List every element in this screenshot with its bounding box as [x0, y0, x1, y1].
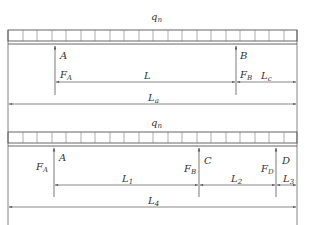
dimension-label-l3: L3	[282, 173, 295, 186]
dimension-label-l4: L4	[147, 195, 159, 208]
support-label-a: A	[59, 50, 67, 61]
dimension-label-l1: L1	[121, 173, 133, 186]
support-label-c: C	[204, 155, 212, 166]
beam-diagram: qn A FA B FB L Lc	[0, 0, 309, 225]
force-label-fb2: FB	[183, 163, 196, 176]
force-label-fd: FD	[260, 163, 274, 176]
dimension-label-l2: L2	[230, 173, 243, 186]
load-label-qn-2: qn	[151, 117, 162, 130]
load-label-qn-1: qn	[151, 11, 162, 24]
support-label-b: B	[239, 50, 247, 61]
force-label-fb: FB	[239, 69, 252, 82]
beam-2: qn A FA C FB D FD L1	[8, 117, 297, 208]
dimension-label-la: La	[147, 92, 159, 105]
dimension-label-lc: Lc	[260, 70, 272, 83]
distributed-load-2	[8, 132, 297, 143]
dimension-label-l: L	[143, 70, 151, 81]
support-label-d: D	[281, 155, 290, 166]
distributed-load-1	[8, 30, 297, 41]
force-label-fa2: FA	[35, 161, 48, 174]
support-label-a2: A	[58, 152, 66, 163]
beam-1: qn A FA B FB L Lc	[8, 11, 297, 105]
force-label-fa: FA	[59, 69, 72, 82]
